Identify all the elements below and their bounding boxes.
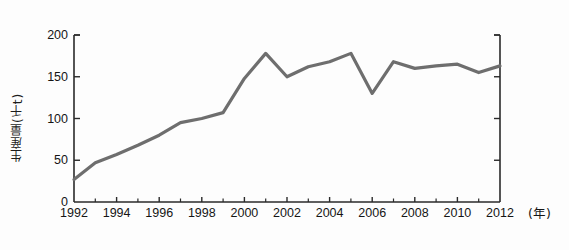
axis-lines xyxy=(74,35,500,202)
axis-ticks xyxy=(74,35,500,202)
plot-area xyxy=(0,0,569,250)
chart-figure: 生産量(千t) 050100150200 (年) 199219941996199… xyxy=(0,0,569,250)
data-line-series-production xyxy=(74,53,500,179)
